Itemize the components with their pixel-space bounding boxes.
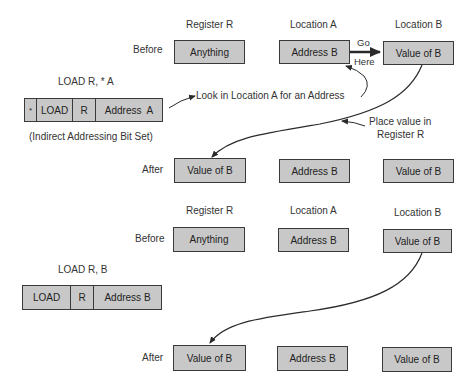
address-field: Address A <box>96 99 162 121</box>
header-register-r-top: Register R <box>186 19 233 30</box>
register-r-after-bottom: Value of B <box>173 345 246 371</box>
indirect-bit-field: * <box>25 99 37 121</box>
header-location-b-top: Location B <box>395 19 442 30</box>
instruction-note: (Indirect Addressing Bit Set) <box>29 131 153 142</box>
register-r-after-top: Value of B <box>174 158 246 183</box>
place-annotation-line2: Register R <box>377 129 424 140</box>
location-a-after-bottom: Address B <box>277 346 348 371</box>
before-label-bottom: Before <box>135 233 164 244</box>
location-b-after-top: Value of B <box>383 159 454 183</box>
instruction-indirect: * LOAD R Address A <box>24 98 163 122</box>
here-label: Here <box>354 56 375 67</box>
after-label-bottom: After <box>142 352 163 363</box>
register-r-before-bottom: Anything <box>173 227 245 252</box>
register-r-before-top: Anything <box>174 40 245 64</box>
top-value-transfer-arrow <box>212 65 422 157</box>
look-pointer-arrow <box>169 96 195 108</box>
before-label-top: Before <box>133 44 162 55</box>
header-register-r-bottom: Register R <box>186 205 233 216</box>
after-label-top: After <box>142 164 163 175</box>
address-field: Address B <box>94 286 161 309</box>
location-a-before-top: Address B <box>279 40 350 64</box>
place-value-pointer <box>342 121 365 126</box>
instruction-title-top: LOAD R, * A <box>58 76 114 87</box>
header-location-b-bottom: Location B <box>394 207 441 218</box>
register-field: R <box>73 99 96 121</box>
instruction-title-bottom: LOAD R, B <box>58 264 107 275</box>
register-field: R <box>71 286 94 309</box>
location-a-after-top: Address B <box>279 159 350 183</box>
header-location-a-bottom: Location A <box>290 205 337 216</box>
bottom-value-transfer-arrow <box>210 253 422 343</box>
location-a-before-bottom: Address B <box>278 228 349 252</box>
location-b-before-top: Value of B <box>383 41 454 65</box>
opcode-field: LOAD <box>37 99 73 121</box>
instruction-direct: LOAD R Address B <box>22 285 162 310</box>
location-b-after-bottom: Value of B <box>382 347 452 372</box>
header-location-a-top: Location A <box>290 19 337 30</box>
place-annotation-line1: Place value in <box>369 116 431 127</box>
look-annotation: Look in Location A for an Address <box>196 90 344 101</box>
location-b-before-bottom: Value of B <box>383 229 452 253</box>
go-label: Go <box>357 37 370 48</box>
opcode-field: LOAD <box>23 286 71 309</box>
look-location-a-arrow <box>346 66 367 97</box>
